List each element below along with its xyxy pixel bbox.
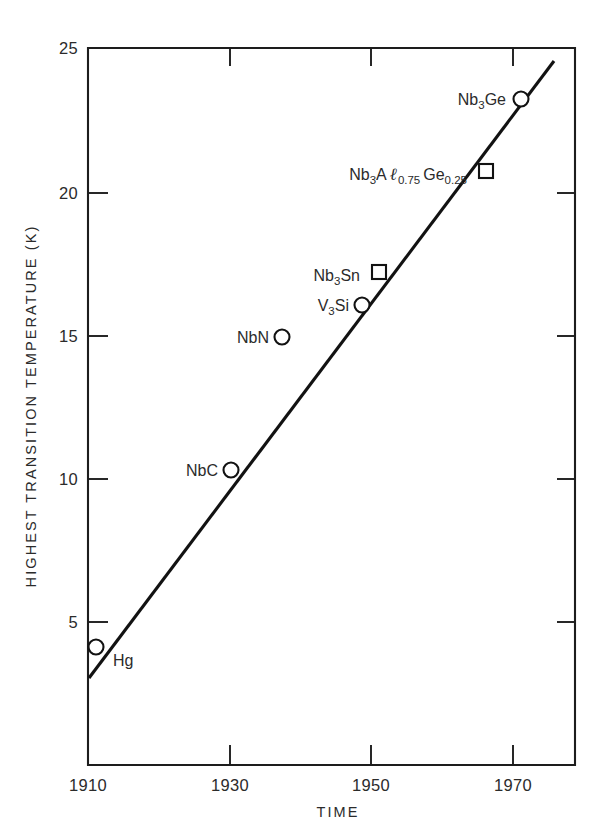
y-axis-ticks: [88, 193, 108, 622]
marker-nbc[interactable]: [224, 463, 239, 478]
point-label-v3si: V3Si: [318, 297, 349, 317]
nb3alge-sub-025: 0.25: [445, 174, 467, 186]
y-axis-title: HIGHEST TRANSITION TEMPERATURE (K): [23, 225, 39, 588]
plot-frame: [88, 48, 575, 765]
trend-line-group: [89, 61, 554, 678]
marker-v3si[interactable]: [355, 298, 370, 313]
x-tick-label-1910: 1910: [69, 776, 107, 794]
marker-nbn[interactable]: [275, 330, 290, 345]
point-label-nb3al075ge025: Nb3Aℓ0.75Ge0.25: [349, 165, 467, 186]
nb3alge-nb: Nb: [349, 166, 370, 183]
point-labels: Hg NbC NbN V3Si Nb3Sn Nb3Aℓ0.75Ge0.25 Nb…: [113, 91, 506, 669]
nb3alge-sub-075: 0.75: [398, 174, 420, 186]
y-tick-label-10: 10: [59, 470, 78, 488]
nb3alge-ge: Ge: [423, 166, 444, 183]
nb3ge-compound: Ge: [485, 91, 506, 108]
point-label-nb3ge: Nb3Ge: [458, 91, 506, 111]
y-tick-label-20: 20: [59, 184, 78, 202]
nb3ge-element: Nb: [458, 91, 479, 108]
y-tick-label-15: 15: [59, 327, 78, 345]
point-label-nbc: NbC: [186, 462, 218, 479]
x-axis-ticks: [230, 745, 513, 765]
x-axis-title: TIME: [316, 804, 359, 820]
marker-nb3sn[interactable]: [372, 265, 386, 279]
y-tick-label-5: 5: [69, 613, 78, 631]
nb3alge-a: A: [376, 166, 387, 183]
x-axis-ticks-top: [230, 48, 513, 66]
point-label-nbn: NbN: [237, 329, 269, 346]
v3si-element: V: [318, 297, 329, 314]
v3si-compound: Si: [335, 297, 349, 314]
x-tick-label-1930: 1930: [211, 776, 249, 794]
marker-hg[interactable]: [89, 640, 104, 655]
x-tick-label-1950: 1950: [352, 776, 390, 794]
y-axis-ticks-right: [557, 193, 575, 622]
nb3alge-script-l: ℓ: [390, 165, 397, 184]
figure-container: 25 20 15 10 5 1910 1930 1950 1970 TIME H…: [0, 0, 612, 838]
marker-nb3ge[interactable]: [514, 92, 529, 107]
axes-box: [88, 48, 575, 765]
transition-temperature-chart: 25 20 15 10 5 1910 1930 1950 1970 TIME H…: [0, 0, 612, 838]
axis-titles: TIME HIGHEST TRANSITION TEMPERATURE (K): [23, 225, 360, 820]
nb3sn-element: Nb: [314, 267, 335, 284]
point-label-hg: Hg: [113, 652, 133, 669]
y-tick-label-25: 25: [59, 39, 78, 57]
point-label-nb3sn: Nb3Sn: [314, 267, 360, 287]
x-tick-labels: 1910 1930 1950 1970: [69, 776, 532, 794]
marker-nb3al075ge025[interactable]: [479, 164, 493, 178]
trend-line: [89, 61, 554, 678]
nb3sn-compound: Sn: [340, 267, 360, 284]
x-tick-label-1970: 1970: [494, 776, 532, 794]
y-tick-labels: 25 20 15 10 5: [59, 39, 78, 631]
